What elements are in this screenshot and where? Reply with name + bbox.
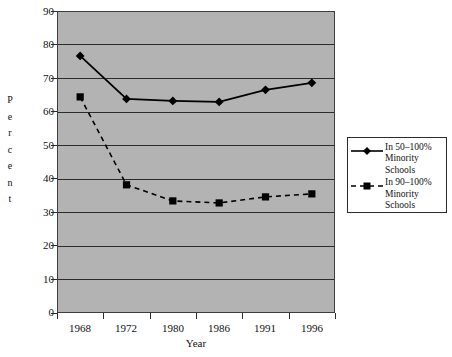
y-axis-title: P e r c e n t — [2, 92, 18, 208]
legend-label-line: Schools — [385, 200, 443, 211]
legend-sample-diamond-icon — [351, 146, 383, 156]
y-axis-tick-labels: 90 80 70 60 50 40 30 20 10 0 — [18, 0, 54, 357]
y-tick-label: 40 — [20, 173, 54, 184]
gridline — [58, 212, 334, 213]
legend-entry[interactable]: In 90–100% Minority Schools — [351, 177, 443, 211]
gridline — [58, 279, 334, 280]
y-tick-label: 90 — [20, 6, 54, 17]
plot-area — [57, 11, 335, 313]
line-chart: P e r c e n t 90 80 70 60 50 40 30 20 10… — [0, 0, 452, 357]
y-tick-label: 80 — [20, 39, 54, 50]
legend-label-line: Schools — [385, 165, 443, 176]
gridline — [58, 145, 334, 146]
y-axis-title-letter: r — [2, 125, 18, 142]
x-tickmark — [335, 313, 336, 319]
gridline — [58, 179, 334, 180]
x-tick-label: 1996 — [282, 322, 342, 334]
y-axis-title-letter: t — [2, 191, 18, 208]
gridline — [58, 246, 334, 247]
legend-label-line: Minority — [385, 189, 443, 200]
legend-label-line: Minority — [385, 153, 443, 164]
y-axis-title-letter: e — [2, 158, 18, 175]
x-tickmark — [289, 313, 290, 319]
x-tickmark — [242, 313, 243, 319]
y-tick-label: 0 — [20, 307, 54, 318]
legend-label-line: In 90–100% — [385, 177, 443, 188]
y-axis-title-letter: P — [2, 92, 18, 109]
legend-sample-square-icon — [351, 181, 383, 191]
legend-entry[interactable]: In 50–100% Minority Schools — [351, 142, 443, 176]
x-axis-title: Year — [0, 337, 392, 349]
y-axis-title-letter: e — [2, 109, 18, 126]
y-tick-label: 20 — [20, 240, 54, 251]
x-tickmark — [57, 313, 58, 319]
gridline — [58, 44, 334, 45]
y-tick-label: 50 — [20, 140, 54, 151]
x-tickmark — [150, 313, 151, 319]
y-tick-label: 30 — [20, 207, 54, 218]
y-tick-label: 10 — [20, 274, 54, 285]
legend-label-line: In 50–100% — [385, 142, 443, 153]
y-tick-label: 70 — [20, 73, 54, 84]
y-tick-label: 60 — [20, 106, 54, 117]
gridline — [58, 78, 334, 79]
y-axis-title-letter: n — [2, 175, 18, 192]
y-axis-title-letter: c — [2, 142, 18, 159]
legend: In 50–100% Minority Schools In 90–100% M… — [347, 137, 447, 213]
gridline — [58, 112, 334, 113]
x-tickmark — [103, 313, 104, 319]
x-tickmark — [196, 313, 197, 319]
